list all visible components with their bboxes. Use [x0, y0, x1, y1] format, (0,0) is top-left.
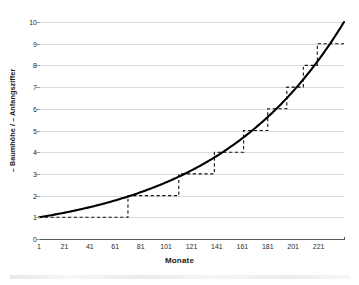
plot-area: [39, 22, 344, 239]
y-tick-label-2: 2: [20, 192, 37, 199]
y-tick-mark-4: [36, 152, 40, 153]
page-edge-artifact: [10, 275, 350, 279]
x-tick-label-121: 121: [186, 243, 198, 250]
y-tick-label-7: 7: [20, 84, 37, 91]
y-tick-mark-3: [36, 174, 40, 175]
x-tick-label-101: 101: [160, 243, 172, 250]
y-tick-mark-10: [36, 22, 40, 23]
y-tick-label-0: 0: [20, 236, 37, 243]
y-tick-label-1: 1: [20, 214, 37, 221]
x-tick-label-181: 181: [262, 243, 274, 250]
y-tick-mark-0: [36, 239, 40, 240]
y-tick-mark-5: [36, 131, 40, 132]
x-tick-label-201: 201: [287, 243, 299, 250]
y-axis-title-text: – Baumhöhe / – Anfangsziffer: [9, 68, 18, 172]
y-tick-mark-6: [36, 109, 40, 110]
x-tick-label-221: 221: [313, 243, 325, 250]
x-tick-label-61: 61: [111, 243, 119, 250]
y-tick-label-3: 3: [20, 170, 37, 177]
x-tick-label-1: 1: [37, 243, 41, 250]
x-tick-label-161: 161: [236, 243, 248, 250]
y-tick-mark-8: [36, 65, 40, 66]
y-axis-title: – Baumhöhe / – Anfangsziffer: [6, 0, 20, 240]
y-tick-label-6: 6: [20, 105, 37, 112]
y-tick-mark-1: [36, 217, 40, 218]
y-tick-label-8: 8: [20, 62, 37, 69]
x-tick-label-21: 21: [61, 243, 69, 250]
y-tick-label-5: 5: [20, 127, 37, 134]
chart-figure: – Baumhöhe / – Anfangsziffer 01234567891…: [0, 0, 359, 285]
x-axis-title: Monate: [0, 256, 359, 265]
x-axis-tick-labels: 121416181101121141161181201221: [0, 243, 359, 255]
y-tick-mark-7: [36, 87, 40, 88]
y-tick-mark-9: [36, 44, 40, 45]
x-tick-label-41: 41: [86, 243, 94, 250]
x-tick-label-81: 81: [137, 243, 145, 250]
y-tick-label-9: 9: [20, 40, 37, 47]
y-tick-label-10: 10: [20, 19, 37, 26]
y-tick-mark-2: [36, 196, 40, 197]
series-baumhoehe-curve: [39, 22, 344, 239]
x-tick-label-141: 141: [211, 243, 223, 250]
y-tick-label-4: 4: [20, 149, 37, 156]
